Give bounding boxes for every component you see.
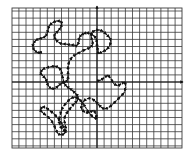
curve-plot [0, 0, 189, 159]
